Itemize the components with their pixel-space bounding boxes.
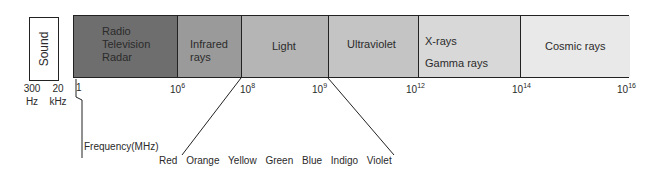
tick-1e9: 109	[312, 82, 327, 95]
tick-1e6: 106	[170, 82, 185, 95]
tick-1e14: 1014	[512, 82, 531, 95]
segment-label: X-rays	[425, 30, 488, 52]
segment-light: Light	[242, 16, 329, 77]
segment-label: Radar	[102, 51, 150, 64]
segment-label: Infrared	[190, 38, 228, 51]
color-blue: Blue	[302, 155, 322, 166]
segment-label: Light	[272, 40, 296, 53]
segment-label: Cosmic rays	[545, 40, 606, 53]
color-green: Green	[265, 155, 293, 166]
tick-1e12: 1012	[406, 82, 425, 95]
segment-infrared: Infrared rays	[178, 16, 242, 77]
tick-1e16: 1016	[617, 82, 636, 95]
segment-label: Gamma rays	[425, 52, 488, 74]
segment-xray-gamma: X-rays Gamma rays	[419, 16, 521, 77]
segment-label: Radio	[102, 25, 150, 38]
sound-high-freq: 20 kHz	[46, 82, 70, 108]
frequency-axis-label: Frequency(MHz)	[84, 141, 158, 152]
visible-colors-list: Red Orange Yellow Green Blue Indigo Viol…	[159, 155, 398, 166]
sound-label: Sound	[37, 32, 51, 67]
segment-cosmic: Cosmic rays	[521, 16, 630, 77]
tick-1: 1	[76, 82, 82, 93]
sound-low-unit: Hz	[20, 95, 44, 108]
segment-ultraviolet: Ultraviolet	[329, 16, 419, 77]
sound-low-value: 300	[20, 82, 44, 95]
color-violet: Violet	[367, 155, 392, 166]
color-indigo: Indigo	[331, 155, 358, 166]
segment-label: Television	[102, 38, 150, 51]
spectrum-bar: Radio Television Radar Infrared rays Lig…	[73, 15, 629, 78]
sound-low-freq: 300 Hz	[20, 82, 44, 108]
sound-high-unit: kHz	[46, 95, 70, 108]
sound-high-value: 20	[46, 82, 70, 95]
segment-label: rays	[190, 51, 228, 64]
color-orange: Orange	[186, 155, 219, 166]
color-red: Red	[159, 155, 177, 166]
segment-label: Ultraviolet	[347, 38, 396, 51]
tick-1e8: 108	[240, 82, 255, 95]
sound-box: Sound	[29, 17, 59, 81]
color-yellow: Yellow	[228, 155, 257, 166]
segment-radio: Radio Television Radar	[74, 16, 178, 77]
